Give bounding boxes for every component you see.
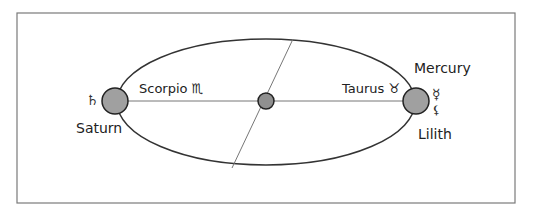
saturn-body bbox=[102, 88, 128, 114]
taurus-label: Taurus ♉ bbox=[342, 82, 400, 95]
center-body bbox=[258, 93, 274, 109]
lilith-label: Lilith bbox=[418, 127, 452, 141]
orbit-diagram bbox=[0, 0, 534, 216]
saturn-label: Saturn bbox=[76, 121, 122, 135]
scorpio-label: Scorpio ♏ bbox=[139, 82, 203, 95]
mercury-label: Mercury bbox=[414, 61, 471, 75]
mercury-glyph-icon: ☿ bbox=[432, 87, 441, 101]
lilith-glyph-icon: ⚸ bbox=[432, 104, 441, 116]
mercury-lilith-body bbox=[403, 88, 429, 114]
saturn-glyph-icon: ♄ bbox=[86, 93, 99, 107]
